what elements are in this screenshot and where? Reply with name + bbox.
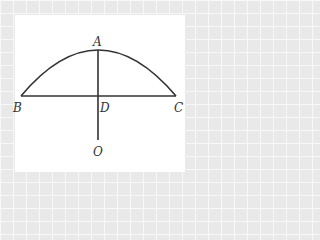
geometry-figure: A B C D O <box>0 0 195 186</box>
label-b: B <box>12 101 22 115</box>
label-c: C <box>174 101 183 115</box>
label-d: D <box>99 101 110 115</box>
label-a: A <box>92 35 102 49</box>
label-o: O <box>93 145 103 159</box>
